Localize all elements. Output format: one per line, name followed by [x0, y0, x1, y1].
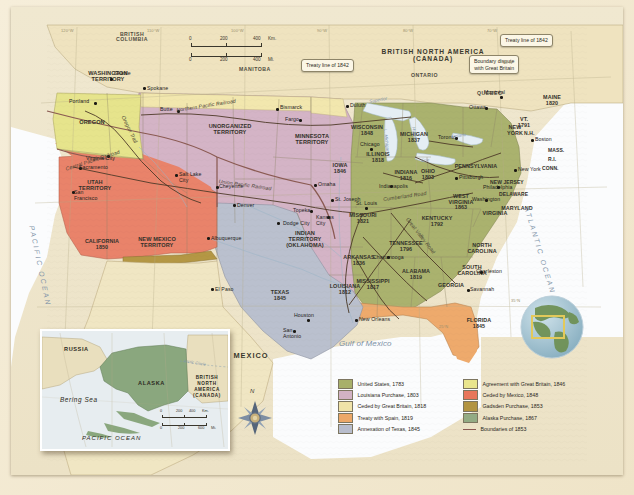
city-dot-fargo — [299, 119, 302, 122]
legend-label-alaska-purchase-1867: Alaska Purchase, 1867 — [483, 415, 537, 421]
city-dot-seattle — [110, 78, 113, 81]
inset-scale-km-400: 400 — [189, 409, 195, 413]
legend-label-agreement-with-great-britain-1846: Agreement with Great Britain, 1846 — [483, 381, 566, 387]
city-dot-cheyenne — [216, 186, 219, 189]
city-dot-virginia-city — [107, 155, 110, 158]
legend-label-annexation-of-texas-1845: Annexation of Texas, 1845 — [358, 426, 420, 432]
city-dot-pittsburgh — [455, 177, 458, 180]
city-dot-chicago — [370, 148, 373, 151]
scale-bar: 0 200 400 Km. 0 200 400 Mi. — [183, 35, 291, 61]
inset-scale-mi-unit: Mi. — [211, 426, 216, 430]
legend-swatch-united-states-1783 — [338, 379, 353, 389]
city-dot-dodge-city — [277, 222, 280, 225]
city-dot-el-paso — [211, 288, 214, 291]
legend-item-gadsden-purchase-1853: Gadsden Purchase, 1853 — [463, 401, 603, 412]
scale-km-unit: Km. — [268, 36, 276, 41]
legend-swatch-alaska-purchase-1867 — [463, 413, 478, 423]
legend-column-1: United States, 1783 Louisiana Purchase, … — [338, 378, 460, 435]
legend-item-annexation-of-texas-1845: Annexation of Texas, 1845 — [338, 424, 460, 435]
legend-swatch-annexation-of-texas-1845 — [338, 424, 353, 434]
city-dot-san-francisco — [72, 191, 75, 194]
legend-item-treaty-with-spain-1819: Treaty with Spain, 1819 — [338, 412, 460, 423]
city-dot-omaha — [314, 184, 317, 187]
legend-item-ceded-by-mexico-1848: Ceded by Mexico, 1848 — [463, 389, 603, 400]
inset-scale-mi-0: 0 — [160, 426, 162, 430]
city-dot-topeka — [310, 210, 313, 213]
city-dot-chattanooga — [387, 256, 390, 259]
inset-scale-mi-600: 600 — [198, 426, 204, 430]
legend-item-alaska-purchase-1867: Alaska Purchase, 1867 — [463, 412, 603, 423]
city-dot-houston — [307, 319, 310, 322]
globe-locator-inset — [519, 294, 585, 360]
scale-mi-400: 400 — [253, 57, 261, 62]
city-dot-toronto — [455, 137, 458, 140]
legend-column-2: Agreement with Great Britain, 1846 Ceded… — [463, 378, 603, 435]
legend-label-boundaries-of-1853: Boundaries of 1853 — [481, 426, 527, 432]
city-dot-portland — [94, 102, 97, 105]
legend-label-ceded-by-mexico-1848: Ceded by Mexico, 1848 — [483, 392, 539, 398]
city-dot-butte — [177, 110, 180, 113]
city-dot-new-york — [514, 169, 517, 172]
legend-item-boundaries-of-1853: Boundaries of 1853 — [463, 424, 603, 435]
legend-item-ceded-by-great-britain-1818: Ceded by Great Britain, 1818 — [338, 401, 460, 412]
map-plate: Treaty line of 1842 Treaty line of 1842 … — [11, 7, 623, 475]
legend-swatch-treaty-with-spain-1819 — [338, 413, 353, 423]
legend-label-gadsden-purchase-1853: Gadsden Purchase, 1853 — [483, 403, 543, 409]
scale-mi-0: 0 — [189, 57, 192, 62]
compass-rose: N — [233, 388, 277, 440]
inset-scale-km-200: 200 — [176, 409, 182, 413]
city-dot-salt-lake-city — [175, 174, 178, 177]
city-dot-st-louis — [365, 207, 368, 210]
city-dot-kansas-city — [327, 216, 330, 219]
city-dot-savannah — [467, 289, 470, 292]
map-legend: United States, 1783 Louisiana Purchase, … — [338, 378, 600, 446]
scale-mi-200: 200 — [220, 57, 228, 62]
callout-treaty-line-1842-east: Treaty line of 1842 — [500, 34, 553, 47]
legend-label-louisiana-purchase-1803: Louisiana Purchase, 1803 — [358, 392, 419, 398]
alaska-inset: RUSSIA ALASKA BRITISH NORTH AMERICA (CAN… — [40, 329, 230, 451]
inset-scale-bar: 0 200 400 Km. 0 200 600 Mi. — [158, 409, 218, 431]
city-dot-spokane — [143, 87, 146, 90]
callout-treaty-line-1842-west: Treaty line of 1842 — [301, 59, 354, 72]
legend-swatch-louisiana-purchase-1803 — [338, 390, 353, 400]
city-dot-washington — [485, 199, 488, 202]
inset-scale-km-0: 0 — [160, 409, 162, 413]
legend-line-boundaries-of-1853 — [463, 429, 476, 430]
inset-scale-km-unit: Km. — [202, 409, 209, 413]
city-dot-charleston — [480, 271, 483, 274]
legend-swatch-agreement-with-great-britain-1846 — [463, 379, 478, 389]
scale-mi-unit: Mi. — [268, 57, 274, 62]
scale-km-200: 200 — [220, 36, 228, 41]
legend-label-ceded-by-great-britain-1818: Ceded by Great Britain, 1818 — [358, 403, 427, 409]
city-dot-denver — [233, 204, 236, 207]
city-dot-indianapolis — [390, 185, 393, 188]
city-dot-montreal — [500, 96, 503, 99]
city-dot-duluth — [346, 105, 349, 108]
legend-item-agreement-with-great-britain-1846: Agreement with Great Britain, 1846 — [463, 378, 603, 389]
legend-label-treaty-with-spain-1819: Treaty with Spain, 1819 — [358, 415, 413, 421]
legend-swatch-ceded-by-great-britain-1818 — [338, 401, 353, 411]
city-dot-st-joseph — [331, 199, 334, 202]
scale-km-0: 0 — [189, 36, 192, 41]
legend-label-united-states-1783: United States, 1783 — [358, 381, 405, 387]
city-dot-bismarck — [276, 108, 279, 111]
compass-north-label: N — [250, 388, 254, 394]
city-dot-ottawa — [485, 107, 488, 110]
callout-boundary-dispute: Boundary dispute with Great Britain — [469, 55, 519, 74]
city-dot-philadelphia — [497, 186, 500, 189]
city-dot-sacramento — [79, 167, 82, 170]
city-dot-new-orleans — [355, 319, 358, 322]
legend-swatch-gadsden-purchase-1853 — [463, 401, 478, 411]
legend-item-united-states-1783: United States, 1783 — [338, 378, 460, 389]
map-page: Treaty line of 1842 Treaty line of 1842 … — [0, 0, 634, 495]
legend-swatch-ceded-by-mexico-1848 — [463, 390, 478, 400]
city-dot-san-antonio — [293, 330, 296, 333]
legend-item-louisiana-purchase-1803: Louisiana Purchase, 1803 — [338, 389, 460, 400]
scale-km-400: 400 — [253, 36, 261, 41]
city-dot-boston — [531, 139, 534, 142]
inset-scale-mi-200: 200 — [178, 426, 184, 430]
city-dot-albuquerque — [207, 237, 210, 240]
